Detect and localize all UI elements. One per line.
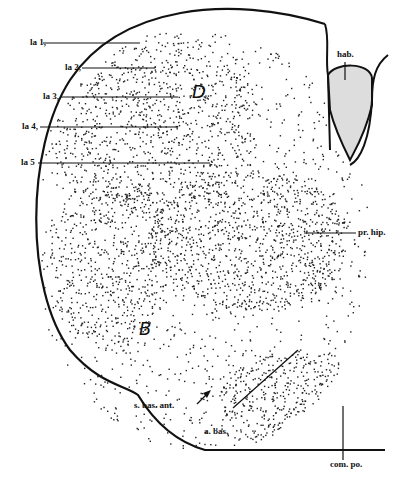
label-la3: la 3, (43, 92, 59, 101)
label-la4: la 4, (22, 122, 38, 131)
label-la1: la 1, (30, 38, 46, 47)
label-hab: hab. (337, 50, 354, 59)
label-la5: la 5 (21, 158, 35, 167)
brain-section-diagram (0, 0, 410, 478)
label-pr-hip: pr. hip. (358, 228, 385, 237)
label-com-po: com. po. (330, 460, 362, 469)
habenula-nucleus (328, 66, 372, 160)
leader-lines (38, 43, 356, 460)
label-a-bas: a. bas. (204, 427, 228, 436)
region-D: D (192, 83, 206, 101)
label-la2: la 2, (65, 63, 81, 72)
label-s-bas-ant: s. bas. ant. (134, 401, 174, 410)
region-B: B (139, 320, 151, 338)
